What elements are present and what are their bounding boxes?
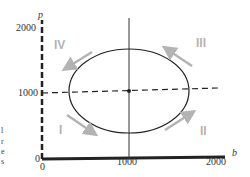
region-label-ii: II bbox=[200, 124, 207, 138]
x-tick-2000: 2000 bbox=[206, 156, 226, 167]
phase-plane-diagram: IV III I II p 2000 1000 0 b 0 1000 2000 … bbox=[0, 0, 250, 177]
edge-text: r bbox=[1, 137, 4, 146]
region-label-i: I bbox=[59, 123, 62, 137]
y-tick-1000: 1000 bbox=[18, 87, 38, 98]
arrow-icon-iii bbox=[168, 50, 192, 66]
edge-text: e bbox=[1, 147, 5, 156]
y-tick-2000: 2000 bbox=[16, 22, 36, 33]
region-label-iii: III bbox=[196, 36, 206, 50]
x-tick-0: 0 bbox=[40, 161, 45, 172]
edge-text: s bbox=[1, 157, 4, 166]
equilibrium-point bbox=[127, 89, 131, 93]
x-tick-1000: 1000 bbox=[117, 156, 137, 167]
arrow-icon-i bbox=[67, 115, 92, 132]
x-axis-label: b bbox=[232, 147, 237, 158]
edge-text: l bbox=[1, 126, 4, 135]
region-label-iv: IV bbox=[54, 38, 65, 52]
y-axis-label: p bbox=[37, 9, 43, 20]
